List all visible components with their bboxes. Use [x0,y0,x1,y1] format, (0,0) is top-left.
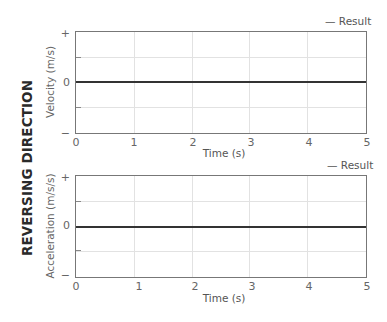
x-tick: 5 [364,137,371,149]
side-title: REVERSING DIRECTION [19,80,35,256]
y-axis-label: Acceleration (m/s/s) [44,173,56,278]
x-tick: 2 [190,137,197,149]
legend-result: — Result [327,159,373,171]
x-tick: 3 [249,281,256,293]
y-tick-minus: − [56,128,70,139]
x-tick: 2 [192,281,199,293]
result-line [76,226,366,228]
x-tick: 4 [306,281,313,293]
y-tick-plus: + [56,28,70,39]
x-tick: 0 [73,281,80,293]
x-tick: 4 [306,137,313,149]
x-tick: 3 [248,137,255,149]
velocity-plot-area [75,31,367,134]
y-tick-plus: + [56,172,70,183]
y-tick-zero: 0 [56,220,70,231]
legend-result: — Result [325,15,371,27]
y-tick-minus: − [56,270,70,281]
x-tick: 1 [131,137,138,149]
y-axis-label: Velocity (m/s) [44,46,56,118]
x-tick: 1 [136,281,143,293]
x-tick: 5 [364,281,371,293]
x-tick: 0 [73,137,80,149]
y-tick-zero: 0 [56,77,70,88]
result-line [76,81,366,83]
x-axis-label: Time (s) [203,292,246,304]
acceleration-plot-area [75,175,367,278]
x-axis-label: Time (s) [203,147,246,159]
